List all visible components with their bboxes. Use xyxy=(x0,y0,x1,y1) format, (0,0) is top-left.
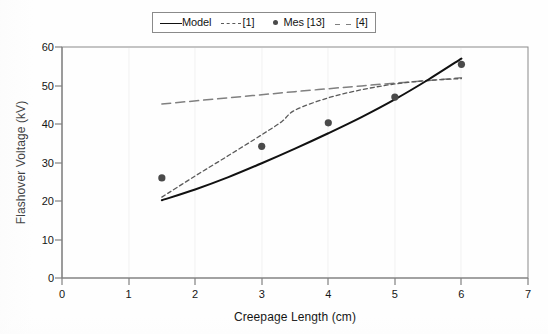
data-point-marker xyxy=(458,61,465,68)
plot-area xyxy=(0,0,548,334)
chart-figure: Model [1] Mes [13] [4] Flashover Voltage… xyxy=(0,0,548,334)
series-mes-markers xyxy=(158,61,465,182)
x-tick-label: 5 xyxy=(385,288,405,300)
y-tick-label: 30 xyxy=(32,157,54,169)
x-tick-label: 0 xyxy=(52,288,72,300)
x-tick-label: 3 xyxy=(252,288,272,300)
series-ref1-line xyxy=(162,79,462,198)
y-axis xyxy=(55,47,62,278)
data-point-marker xyxy=(391,93,398,100)
series-model-line xyxy=(162,59,462,201)
y-tick-label: 20 xyxy=(32,195,54,207)
y-tick-label: 40 xyxy=(32,118,54,130)
data-point-marker xyxy=(258,143,265,150)
y-tick-label: 60 xyxy=(32,41,54,53)
series-path xyxy=(162,59,462,201)
x-tick-label: 4 xyxy=(318,288,338,300)
x-tick-label: 2 xyxy=(185,288,205,300)
x-tick-label: 7 xyxy=(518,288,538,300)
data-point-marker xyxy=(158,174,165,181)
y-tick-label: 50 xyxy=(32,80,54,92)
series-path xyxy=(162,78,462,104)
series-ref4-line xyxy=(162,78,462,104)
plot-gridlines xyxy=(129,48,461,277)
x-axis xyxy=(62,278,528,285)
y-tick-label: 0 xyxy=(32,272,54,284)
plot-frame xyxy=(62,47,528,278)
x-tick-label: 1 xyxy=(119,288,139,300)
x-tick-label: 6 xyxy=(451,288,471,300)
data-point-marker xyxy=(325,119,332,126)
y-tick-label: 10 xyxy=(32,234,54,246)
series-path xyxy=(162,79,462,198)
